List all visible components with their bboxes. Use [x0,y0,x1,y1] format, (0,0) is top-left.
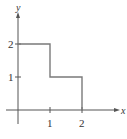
y-tick-label-1: 1 [8,71,14,83]
axes: y x [6,2,126,124]
x-axis-arrow-icon [114,108,120,112]
y-tick-label-2: 2 [8,38,14,50]
x-tick-label-1: 1 [47,117,53,129]
step-series-line [18,44,82,110]
chart-canvas: y x 1 2 1 2 [0,0,127,139]
x-tick-label-2: 2 [79,117,85,129]
ticks: 1 2 1 2 [8,38,85,129]
y-axis-label: y [15,2,21,13]
step-function-chart: y x 1 2 1 2 [0,0,127,139]
x-axis-label: x [120,105,126,116]
